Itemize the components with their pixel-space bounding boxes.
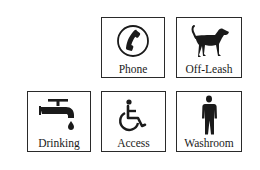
dog-icon [177, 22, 241, 60]
sign-phone: Phone [101, 17, 165, 78]
sign-label: Drinking [28, 137, 90, 149]
sign-label: Washroom [177, 137, 241, 149]
phone-icon [102, 22, 164, 60]
sign-access: Access [101, 91, 166, 152]
wheelchair-icon [102, 96, 165, 134]
person-icon [177, 96, 241, 134]
sign-label: Phone [102, 63, 164, 75]
water-faucet-icon [28, 96, 90, 134]
sign-label: Off-Leash [177, 63, 241, 75]
sign-drinking: Drinking [27, 91, 91, 152]
sign-off-leash: Off-Leash [176, 17, 242, 78]
sign-label: Access [102, 137, 165, 149]
sign-washroom: Washroom [176, 91, 242, 152]
